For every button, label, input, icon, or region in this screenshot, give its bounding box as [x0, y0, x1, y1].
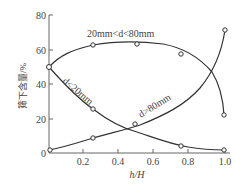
x-tick-0.4: 0.4 — [112, 156, 125, 167]
series-lt-20mm-line — [49, 67, 224, 150]
annotation-20-80mm: 20mm<d<80mm — [87, 28, 155, 39]
annotation-lt-20mm: d<20mm — [61, 75, 96, 107]
y-axis-label: 筛下含量/% — [17, 62, 28, 109]
line-chart: 80 60 40 20 0 0.2 0.4 0.6 0.8 1.0 h/H 筛下… — [0, 0, 246, 190]
y-tick-40: 40 — [36, 79, 46, 90]
x-tick-0.8: 0.8 — [182, 156, 195, 167]
x-tick-0.2: 0.2 — [77, 156, 90, 167]
origin-label: 0 — [41, 148, 46, 159]
x-tick-1.0: 1.0 — [219, 156, 232, 167]
y-tick-60: 60 — [36, 45, 46, 56]
y-tick-20: 20 — [36, 114, 46, 125]
x-tick-0.6: 0.6 — [147, 156, 160, 167]
y-tick-80: 80 — [36, 10, 46, 21]
x-axis-label: h/H — [130, 169, 146, 180]
annotation-gt-80mm: d>80mm — [136, 91, 173, 120]
series-20-80mm-line — [49, 42, 224, 115]
